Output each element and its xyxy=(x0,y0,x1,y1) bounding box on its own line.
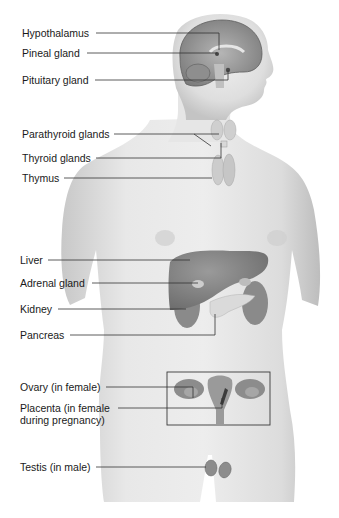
right-adrenal-shape xyxy=(239,278,251,286)
label-adrenal-gland: Adrenal gland xyxy=(20,277,85,289)
thymus-left-lobe xyxy=(212,155,224,185)
label-pancreas: Pancreas xyxy=(20,329,64,341)
label-thyroid-glands: Thyroid glands xyxy=(22,152,91,164)
label-pineal-gland: Pineal gland xyxy=(22,47,80,59)
label-testis: Testis (in male) xyxy=(20,461,91,473)
left-testis xyxy=(205,460,217,476)
right-ovary xyxy=(245,387,259,397)
adrenal-gland-shape xyxy=(192,280,204,288)
label-liver: Liver xyxy=(20,254,43,266)
thyroid-right-lobe xyxy=(224,120,236,140)
thyroid-left-lobe xyxy=(211,120,223,140)
right-nipple-shadow xyxy=(267,230,287,246)
label-placenta: Placenta (in female during pregnancy) xyxy=(20,402,110,426)
parathyroid-shape xyxy=(221,141,227,147)
label-kidney: Kidney xyxy=(20,303,52,315)
thymus-right-lobe xyxy=(223,154,235,186)
left-nipple-shadow xyxy=(155,230,175,246)
cerebellum xyxy=(186,64,210,82)
abdominal-organs xyxy=(169,251,269,328)
label-thymus: Thymus xyxy=(22,172,59,184)
label-hypothalamus: Hypothalamus xyxy=(22,27,89,39)
label-pituitary-gland: Pituitary gland xyxy=(22,74,89,86)
label-ovary: Ovary (in female) xyxy=(20,381,101,393)
left-ovary xyxy=(184,387,198,397)
label-parathyroid-glands: Parathyroid glands xyxy=(22,128,110,140)
